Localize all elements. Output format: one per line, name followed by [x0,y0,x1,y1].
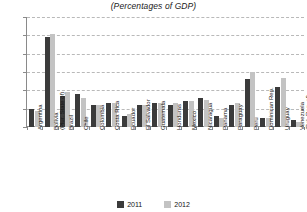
x-axis-category-label: Colombia [99,105,105,130]
y-tick-mark [23,54,27,55]
y-tick-mark [23,90,27,91]
bar [152,103,157,127]
x-axis-category-label: Honduras [176,104,182,130]
legend-label: 2012 [174,201,190,208]
bar [275,87,280,127]
x-tick-mark [27,127,28,130]
bar [106,103,111,127]
bar-group [75,17,86,127]
x-axis-category-label: Paraguay [237,104,243,130]
bar [137,105,142,127]
x-axis-category-label: Chile [83,116,89,130]
x-axis-category-label: Guatemala [160,101,166,130]
legend-item[interactable]: 2012 [164,201,190,208]
bar [91,105,96,127]
x-axis-category-label: Peru [253,117,259,130]
legend-swatch [164,201,171,208]
bar-group [245,17,256,127]
y-tick-mark [23,72,27,73]
x-axis-category-label: Brazil [68,115,74,130]
x-axis-category-label: Dominican Rep. [268,87,274,130]
x-axis-category-label: Venezuela(Bol. Rep. of) [299,95,307,130]
bar [75,94,80,127]
bar [229,105,234,127]
bar [198,98,203,127]
legend-swatch [117,201,124,208]
y-tick-mark [23,109,27,110]
bar [260,118,265,127]
x-axis-category-label: Argentina [37,104,43,130]
x-axis-category-label: El Salvador [145,99,151,130]
x-axis-category-label: Costa Rica [114,101,120,130]
y-tick-mark [23,35,27,36]
legend-item[interactable]: 2011 [117,201,142,208]
bar-chart: (Percentages of GDP) 0102030405060 Argen… [0,0,307,212]
x-axis-category-label: Panama [222,108,228,130]
x-axis-category-label: Bolivia(Plur. State of) [53,92,66,130]
chart-legend: 20112012 [0,201,307,208]
legend-label: 2011 [127,201,142,208]
bar [122,116,127,127]
x-axis-category-label: Uruguay [284,107,290,130]
bar [291,120,296,127]
bar [214,116,219,127]
bar [245,79,250,127]
y-tick-mark [23,17,27,18]
chart-title: (Percentages of GDP) [0,1,307,11]
bar [45,37,50,127]
bar [183,101,188,127]
x-axis-category-label: Ecuador [130,108,136,130]
bar [168,105,173,127]
bar [29,109,34,127]
x-axis-category-label: Mexico [191,111,197,130]
x-axis-category-label: Nicaragua [207,103,213,130]
